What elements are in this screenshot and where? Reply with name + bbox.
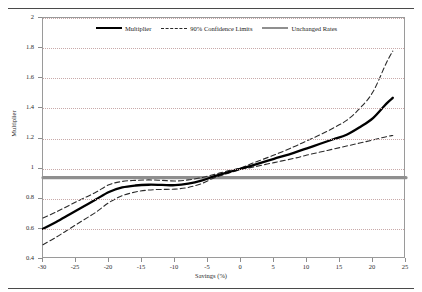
x-tick-label: -20 [95, 264, 121, 271]
x-tick-mark [174, 258, 175, 262]
gridline-horizontal [43, 229, 404, 230]
page-partial-text [150, 0, 415, 7]
legend-swatch-solid-icon [96, 27, 122, 29]
gridline-horizontal [43, 139, 404, 140]
x-tick-label: 20 [359, 264, 385, 271]
x-tick-label: 10 [293, 264, 319, 271]
x-tick-label: 15 [326, 264, 352, 271]
y-tick-mark [38, 228, 42, 229]
gridline-horizontal [43, 108, 404, 109]
y-tick-label: 1 [8, 164, 34, 171]
gridline-horizontal [43, 48, 404, 49]
legend-label-unchanged: Unchanged Rates [291, 25, 337, 32]
x-tick-mark [42, 258, 43, 262]
x-tick-label: -25 [62, 264, 88, 271]
y-tick-label: 1.6 [8, 74, 34, 81]
legend-label-multiplier: Multiplier [125, 25, 151, 32]
x-tick-mark [108, 258, 109, 262]
y-tick-mark [38, 77, 42, 78]
x-tick-label: -5 [194, 264, 220, 271]
plot-area [42, 17, 405, 258]
y-tick-mark [38, 47, 42, 48]
legend-swatch-dashed-icon [161, 28, 187, 29]
y-tick-label: 0.4 [8, 255, 34, 262]
series-line [43, 98, 393, 229]
x-tick-mark [273, 258, 274, 262]
y-tick-label: 0.6 [8, 225, 34, 232]
x-tick-mark [306, 258, 307, 262]
x-tick-mark [240, 258, 241, 262]
x-tick-label: 0 [227, 264, 253, 271]
series-line [43, 51, 393, 218]
x-tick-mark [339, 258, 340, 262]
x-tick-label: -30 [29, 264, 55, 271]
x-tick-label: -15 [128, 264, 154, 271]
y-tick-mark [38, 17, 42, 18]
gridline-horizontal [43, 169, 404, 170]
x-tick-mark [141, 258, 142, 262]
legend-item-confidence: 90% Confidence Limits [161, 25, 252, 32]
gridline-horizontal [43, 199, 404, 200]
page-rule-bottom [8, 288, 414, 289]
y-tick-label: 2 [8, 14, 34, 21]
x-axis-title: Savings (%) [0, 272, 422, 279]
y-tick-mark [38, 107, 42, 108]
y-tick-mark [38, 198, 42, 199]
legend-item-unchanged: Unchanged Rates [262, 25, 337, 32]
legend-swatch-gray-icon [262, 27, 288, 30]
x-tick-label: -10 [161, 264, 187, 271]
y-tick-label: 0.8 [8, 194, 34, 201]
x-tick-mark [75, 258, 76, 262]
gridline-horizontal [43, 78, 404, 79]
x-tick-label: 5 [260, 264, 286, 271]
x-tick-mark [405, 258, 406, 262]
x-tick-mark [372, 258, 373, 262]
x-tick-label: 25 [392, 264, 418, 271]
y-tick-mark [38, 168, 42, 169]
y-tick-label: 1.8 [8, 44, 34, 51]
legend-item-multiplier: Multiplier [96, 25, 151, 32]
figure-page: 0.40.60.811.21.41.61.82 -30-25-20-15-10-… [0, 0, 422, 292]
gridline-horizontal [43, 18, 404, 19]
chart-legend: Multiplier 90% Confidence Limits Unchang… [96, 22, 356, 34]
page-rule-top [8, 8, 414, 9]
x-tick-mark [207, 258, 208, 262]
y-tick-mark [38, 138, 42, 139]
y-axis-title: Multiplier [10, 89, 17, 159]
legend-label-confidence: 90% Confidence Limits [190, 25, 252, 32]
